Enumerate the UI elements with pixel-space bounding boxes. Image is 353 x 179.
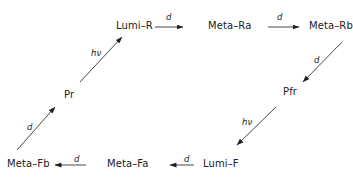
phytochrome-cycle-diagram: Lumi–R Meta–Ra Meta–Rb Pfr Lumi–F Meta–F… (0, 0, 353, 179)
node-pr: Pr (64, 89, 74, 100)
arrows-layer (0, 0, 353, 179)
label-meta-rb-pfr: d (314, 55, 319, 65)
node-meta-rb: Meta–Rb (309, 20, 353, 31)
label-meta-ra-meta-rb: d (277, 12, 282, 22)
arrow-pr-to-lumi-r (80, 37, 122, 82)
label-pr-lumi-r: hν (91, 48, 101, 58)
label-lumi-f-meta-fa: d (184, 154, 189, 164)
node-meta-ra: Meta–Ra (208, 20, 251, 31)
arrow-meta-rb-to-pfr (303, 42, 342, 82)
label-lumi-r-meta-ra: d (166, 12, 171, 22)
label-pfr-lumi-f: hν (242, 117, 252, 127)
node-meta-fb: Meta–Fb (7, 158, 50, 169)
arrow-meta-fb-to-pr (17, 107, 55, 150)
label-meta-fb-pr: d (27, 122, 32, 132)
label-meta-fa-meta-fb: d (74, 154, 79, 164)
node-meta-fa: Meta–Fa (107, 158, 149, 169)
node-pfr: Pfr (283, 86, 297, 97)
node-lumi-r: Lumi–R (116, 20, 153, 31)
node-lumi-f: Lumi–F (203, 158, 239, 169)
